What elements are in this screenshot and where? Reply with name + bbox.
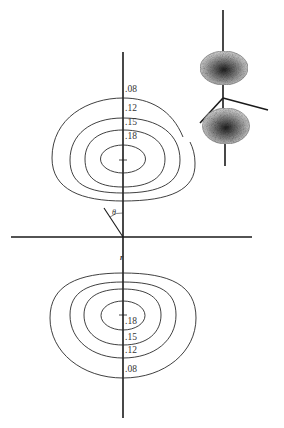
inset-lower-lobe — [203, 108, 250, 144]
inset-upper-lobe — [200, 51, 248, 85]
orbital-inset — [200, 10, 268, 166]
label-lower-08: .08 — [125, 365, 137, 375]
label-upper-12: .12 — [125, 104, 137, 114]
theta-label: θ — [112, 209, 116, 217]
label-lower-12: .12 — [125, 346, 137, 356]
radius-label: r — [120, 254, 123, 262]
label-upper-15: .15 — [125, 118, 137, 128]
contour-upper-12 — [70, 118, 180, 193]
label-lower-15: .15 — [125, 333, 137, 343]
diagram-canvas — [0, 0, 284, 428]
label-lower-18: .18 — [125, 317, 137, 327]
label-upper-08: .08 — [125, 85, 137, 95]
label-upper-18: .18 — [125, 132, 137, 142]
orbital-contour-diagram: .08 .12 .15 .18 .18 .15 .12 .08 θ r — [0, 0, 284, 428]
